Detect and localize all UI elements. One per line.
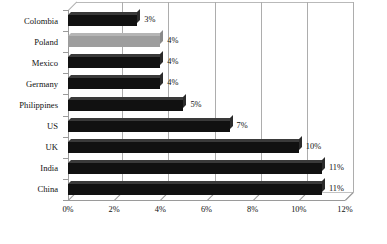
- bar-top-face: [68, 54, 163, 57]
- bar-value-label: 3%: [144, 15, 155, 25]
- bar-value-label: 7%: [237, 121, 248, 131]
- bar-row: 11%: [68, 184, 345, 195]
- bar-value-label: 4%: [167, 78, 178, 88]
- bar-india: [68, 163, 322, 174]
- bar-row: 4%: [68, 78, 345, 89]
- bar-end-face: [160, 72, 163, 86]
- bar-value-label: 4%: [167, 57, 178, 67]
- bar-top-face: [68, 118, 233, 121]
- bar-top-face: [68, 139, 302, 142]
- bar-top-face: [68, 160, 325, 163]
- x-axis-label-8: 8%: [247, 205, 258, 215]
- bar-top-face: [68, 12, 140, 15]
- bar-colombia: [68, 15, 137, 26]
- bar-end-face: [322, 178, 325, 192]
- y-axis-label-germany: Germany: [26, 79, 58, 89]
- bar-top-face: [68, 33, 163, 36]
- y-axis-label-colombia: Colombia: [24, 16, 58, 26]
- bar-china: [68, 184, 322, 195]
- bar-top-face: [68, 97, 186, 100]
- x-axis-line: [68, 200, 345, 201]
- bar-germany: [68, 78, 160, 89]
- x-axis-label-4: 4%: [155, 205, 166, 215]
- plot-area: 3%4%4%4%5%7%10%11%11%: [68, 10, 345, 200]
- bar-row: 4%: [68, 36, 345, 47]
- bar-value-label: 4%: [167, 36, 178, 46]
- x-axis-label-2: 2%: [109, 205, 120, 215]
- bar-end-face: [137, 9, 140, 23]
- bar-value-label: 11%: [329, 184, 344, 194]
- bar-row: 11%: [68, 163, 345, 174]
- x-axis-label-12: 12%: [337, 205, 352, 215]
- bar-value-label: 5%: [190, 100, 201, 110]
- y-axis-category-labels: ColombiaPolandMexicoGermanyPhilippinesUS…: [0, 0, 62, 244]
- x-axis-label-0: 0%: [62, 205, 73, 215]
- y-axis-label-philippines: Philippines: [19, 100, 58, 110]
- bar-row: 3%: [68, 15, 345, 26]
- y-axis-label-china: China: [37, 184, 58, 194]
- y-axis-label-uk: UK: [46, 142, 58, 152]
- bar-end-face: [160, 30, 163, 44]
- bar-top-face: [68, 181, 325, 184]
- bar-row: 10%: [68, 142, 345, 153]
- x-axis-tick-labels: 0%2%4%6%8%10%12%: [68, 205, 368, 225]
- bar-value-label: 10%: [306, 142, 321, 152]
- y-axis-label-poland: Poland: [34, 37, 58, 47]
- bar-chart: ColombiaPolandMexicoGermanyPhilippinesUS…: [0, 0, 387, 244]
- bar-row: 7%: [68, 121, 345, 132]
- y-axis-label-mexico: Mexico: [32, 58, 58, 68]
- bar-value-label: 11%: [329, 163, 344, 173]
- y-axis-label-india: India: [40, 163, 58, 173]
- bar-end-face: [160, 51, 163, 65]
- bar-end-face: [299, 136, 302, 150]
- x-axis-label-6: 6%: [201, 205, 212, 215]
- bar-end-face: [322, 157, 325, 171]
- bar-top-face: [68, 75, 163, 78]
- bar-us: [68, 121, 230, 132]
- gridline-12: [353, 2, 354, 192]
- x-axis-label-10: 10%: [291, 205, 306, 215]
- bar-end-face: [230, 115, 233, 129]
- bar-uk: [68, 142, 299, 153]
- bar-philippines: [68, 100, 183, 111]
- y-axis-label-us: US: [47, 121, 58, 131]
- bar-poland: [68, 36, 160, 47]
- bar-row: 5%: [68, 100, 345, 111]
- bar-mexico: [68, 57, 160, 68]
- bar-end-face: [183, 94, 186, 108]
- bar-row: 4%: [68, 57, 345, 68]
